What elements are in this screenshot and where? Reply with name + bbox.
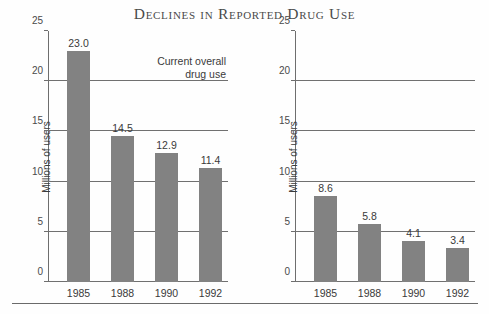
y-tick-label-10: 10 xyxy=(32,165,43,176)
x-tick-label-1990: 1990 xyxy=(402,287,425,299)
tick-mark-20 xyxy=(44,80,48,81)
figure-root: Declines in Reported Drug Use Current ov… xyxy=(0,0,489,314)
plot-area-overall-drug-use: Millions of users 0 5 10 15 20 25 23.0 1… xyxy=(48,31,228,282)
y-tick-label-20: 20 xyxy=(32,65,43,76)
plot-area-cocaine-use: Millions of users 0 5 10 15 20 25 8.6 19… xyxy=(295,31,475,282)
bar-value-1990: 4.1 xyxy=(406,227,421,239)
chart-panel-cocaine-use: Currentcocaine use Millions of users 0 5… xyxy=(257,24,479,296)
bar-value-1992: 11.4 xyxy=(201,154,221,166)
tick-mark-15 xyxy=(291,130,295,131)
y-tick-label-0: 0 xyxy=(37,266,43,277)
y-tick-label-15: 15 xyxy=(32,115,43,126)
y-tick-label-20: 20 xyxy=(279,65,290,76)
bar-value-1990: 12.9 xyxy=(156,139,176,151)
bar-value-1985: 23.0 xyxy=(68,37,88,49)
gridline-15 xyxy=(295,130,475,131)
bar-1990: 4.1 1990 xyxy=(402,241,425,282)
y-tick-label-5: 5 xyxy=(37,215,43,226)
tick-mark-25 xyxy=(44,30,48,31)
y-tick-label-10: 10 xyxy=(279,165,290,176)
bar-1985: 8.6 1985 xyxy=(314,196,337,282)
x-tick-label-1988: 1988 xyxy=(358,287,381,299)
bar-1992: 11.4 1992 xyxy=(199,168,222,283)
y-tick-label-15: 15 xyxy=(279,115,290,126)
chart-panel-overall-drug-use: Current overalldrug use Millions of user… xyxy=(10,24,232,296)
x-tick-label-1985: 1985 xyxy=(67,287,90,299)
tick-mark-0 xyxy=(291,281,295,282)
bar-value-1988: 5.8 xyxy=(362,210,377,222)
y-tick-label-0: 0 xyxy=(284,266,290,277)
x-tick-label-1990: 1990 xyxy=(155,287,178,299)
bar-value-1988: 14.5 xyxy=(112,122,132,134)
figure-bottom-rule xyxy=(12,303,478,304)
tick-mark-25 xyxy=(291,30,295,31)
bar-1988: 5.8 1988 xyxy=(358,224,381,282)
bar-value-1992: 3.4 xyxy=(450,234,465,246)
bar-value-1985: 8.6 xyxy=(318,182,333,194)
x-tick-label-1985: 1985 xyxy=(314,287,337,299)
bar-1988: 14.5 1988 xyxy=(111,136,134,282)
tick-mark-5 xyxy=(291,231,295,232)
tick-mark-5 xyxy=(44,231,48,232)
bar-1985: 23.0 1985 xyxy=(67,51,90,282)
y-tick-label-5: 5 xyxy=(284,215,290,226)
tick-mark-15 xyxy=(44,130,48,131)
figure-title: Declines in Reported Drug Use xyxy=(0,5,489,23)
x-tick-label-1992: 1992 xyxy=(199,287,222,299)
gridline-20 xyxy=(295,80,475,81)
tick-mark-10 xyxy=(44,181,48,182)
y-tick-label-25: 25 xyxy=(279,15,290,26)
tick-mark-0 xyxy=(44,281,48,282)
x-tick-label-1992: 1992 xyxy=(446,287,469,299)
y-tick-label-25: 25 xyxy=(32,15,43,26)
tick-mark-10 xyxy=(291,181,295,182)
bar-1992: 3.4 1992 xyxy=(446,248,469,282)
x-tick-label-1988: 1988 xyxy=(111,287,134,299)
tick-mark-20 xyxy=(291,80,295,81)
bar-1990: 12.9 1990 xyxy=(155,153,178,283)
